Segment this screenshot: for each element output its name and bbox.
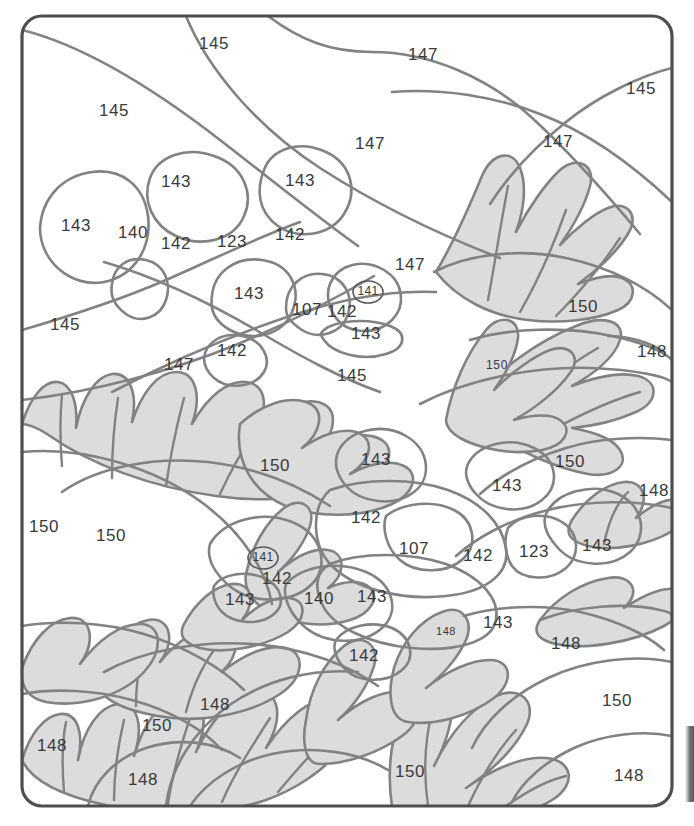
region-number: 148 [200, 695, 230, 714]
region-number: 145 [626, 79, 656, 98]
region-number-text: 107 [292, 300, 322, 319]
region-number: 143 [492, 476, 522, 495]
region-number: 148 [637, 342, 667, 361]
region-number: 150 [602, 691, 632, 710]
region-number: 148 [614, 766, 644, 785]
region-number-text: 150 [142, 716, 172, 735]
region-number-text: 145 [50, 315, 80, 334]
region-number-text: 142 [217, 341, 247, 360]
region-number: 142 [161, 234, 191, 253]
region-number: 148 [37, 736, 67, 755]
region-number-text: 147 [164, 355, 194, 374]
region-number-text: 142 [351, 508, 381, 527]
region-number: 140 [118, 223, 148, 242]
region-number: 143 [351, 324, 381, 343]
region-number: 143 [361, 450, 391, 469]
region-number: 142 [217, 341, 247, 360]
region-number: 150 [96, 526, 126, 545]
region-number-text: 143 [234, 284, 264, 303]
region-number-text: 145 [199, 34, 229, 53]
region-number-text: 150 [29, 517, 59, 536]
region-number-text: 143 [357, 587, 387, 606]
region-number-text: 142 [327, 302, 357, 321]
region-number-text: 148 [639, 481, 669, 500]
region-number: 142 [349, 646, 379, 665]
region-number-text: 147 [543, 132, 573, 151]
region-number-text: 148 [551, 634, 581, 653]
region-number-text: 150 [260, 456, 290, 475]
region-number: 142 [463, 546, 493, 565]
region-number: 143 [357, 587, 387, 606]
region-number: 142 [351, 508, 381, 527]
region-number-text: 143 [361, 450, 391, 469]
region-number-text: 145 [337, 366, 367, 385]
region-number-text: 147 [355, 134, 385, 153]
region-number-text: 142 [463, 546, 493, 565]
region-number-text: 143 [61, 216, 91, 235]
region-number-text: 143 [161, 172, 191, 191]
region-number: 123 [217, 232, 247, 251]
region-number: 145 [50, 315, 80, 334]
region-number-text: 150 [602, 691, 632, 710]
region-number-text: 148 [200, 695, 230, 714]
region-number: 140 [304, 589, 334, 608]
region-number-text: 150 [395, 762, 425, 781]
region-number: 145 [99, 101, 129, 120]
region-number-text: 143 [285, 171, 315, 190]
region-number: 150 [260, 456, 290, 475]
region-number-text: 123 [519, 542, 549, 561]
region-number-text: 143 [351, 324, 381, 343]
region-number: 147 [543, 132, 573, 151]
region-number: 143 [161, 172, 191, 191]
region-number: 107 [292, 300, 322, 319]
region-number: 143 [61, 216, 91, 235]
region-number-text: 141 [253, 550, 274, 564]
region-number: 150 [29, 517, 59, 536]
region-number-text: 143 [225, 590, 255, 609]
region-number-text: 141 [358, 284, 379, 298]
region-number-text: 140 [118, 223, 148, 242]
region-number-text: 142 [275, 225, 305, 244]
region-number: 150 [486, 358, 508, 372]
region-number-text: 145 [99, 101, 129, 120]
region-number: 107 [399, 539, 429, 558]
region-number-text: 150 [486, 358, 508, 372]
region-number-text: 142 [161, 234, 191, 253]
region-number-text: 148 [37, 736, 67, 755]
region-number-text: 150 [555, 452, 585, 471]
region-number-text: 143 [492, 476, 522, 495]
region-number: 148 [128, 770, 158, 789]
region-number-text: 150 [568, 297, 598, 316]
region-number: 150 [142, 716, 172, 735]
region-number-text: 142 [349, 646, 379, 665]
region-number-text: 147 [395, 255, 425, 274]
region-number-text: 147 [408, 45, 438, 64]
region-number: 150 [568, 297, 598, 316]
region-number-text: 150 [96, 526, 126, 545]
region-number: 143 [234, 284, 264, 303]
region-number: 143 [225, 590, 255, 609]
region-number: 143 [285, 171, 315, 190]
region-number: 150 [395, 762, 425, 781]
region-number: 145 [199, 34, 229, 53]
region-number: 147 [408, 45, 438, 64]
region-number: 142 [262, 569, 292, 588]
region-number: 123 [519, 542, 549, 561]
region-number-text: 140 [304, 589, 334, 608]
region-number: 142 [327, 302, 357, 321]
region-number: 142 [275, 225, 305, 244]
region-number: 148 [639, 481, 669, 500]
region-number-text: 142 [262, 569, 292, 588]
region-number-text: 148 [614, 766, 644, 785]
region-number-text: 123 [217, 232, 247, 251]
region-number: 143 [483, 613, 513, 632]
region-number-text: 143 [582, 536, 612, 555]
region-number-text: 148 [637, 342, 667, 361]
region-number-text: 148 [436, 625, 456, 637]
puzzle-artwork: 1451471451451471471431431431401421231421… [0, 0, 694, 826]
region-number: 148 [551, 634, 581, 653]
region-number: 150 [555, 452, 585, 471]
region-number-text: 143 [483, 613, 513, 632]
region-number: 145 [337, 366, 367, 385]
region-number-text: 148 [128, 770, 158, 789]
